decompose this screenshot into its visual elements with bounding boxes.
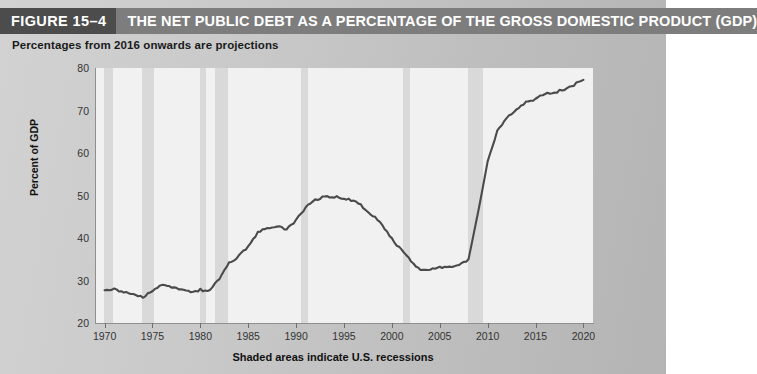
x-axis-tick-label: 2010 xyxy=(476,330,499,342)
x-axis-tick-mark xyxy=(248,323,249,328)
y-axis-tick-label: 20 xyxy=(67,317,89,329)
chart-region xyxy=(0,58,666,358)
x-axis-tick-label: 2020 xyxy=(572,330,595,342)
x-axis-tick-label: 2015 xyxy=(524,330,547,342)
x-axis-tick-label: 1995 xyxy=(332,330,355,342)
x-axis-tick-label: 2005 xyxy=(428,330,451,342)
x-axis-tick-label: 1985 xyxy=(237,330,260,342)
y-axis-tick-label: 80 xyxy=(67,62,89,74)
x-axis-tick-mark xyxy=(344,323,345,328)
y-axis-tick-label: 70 xyxy=(67,105,89,117)
y-axis-title: Percent of GDP xyxy=(28,119,40,196)
x-axis-tick-mark xyxy=(440,323,441,328)
x-axis-tick-mark xyxy=(105,323,106,328)
x-axis-tick-label: 1990 xyxy=(284,330,307,342)
chart-caption: Shaded areas indicate U.S. recessions xyxy=(0,351,666,363)
y-axis-tick-label: 60 xyxy=(67,147,89,159)
x-axis-tick-mark xyxy=(392,323,393,328)
x-axis-tick-mark xyxy=(583,323,584,328)
figure-header-bar: FIGURE 15–4 THE NET PUBLIC DEBT AS A PER… xyxy=(0,8,666,34)
x-axis-tick-label: 1975 xyxy=(141,330,164,342)
x-axis-tick-mark xyxy=(536,323,537,328)
x-axis-tick-label: 1970 xyxy=(93,330,116,342)
figure-subtitle: Percentages from 2016 onwards are projec… xyxy=(12,39,279,51)
x-axis-tick-mark xyxy=(200,323,201,328)
x-axis-tick-label: 1980 xyxy=(189,330,212,342)
plot-area xyxy=(95,68,593,323)
debt-line-series xyxy=(95,68,593,323)
x-axis-tick-mark xyxy=(296,323,297,328)
x-axis-tick-label: 2000 xyxy=(380,330,403,342)
y-axis-tick-label: 50 xyxy=(67,190,89,202)
figure-number-label: FIGURE 15–4 xyxy=(0,8,116,34)
y-axis-tick-label: 40 xyxy=(67,232,89,244)
x-axis-tick-mark xyxy=(152,323,153,328)
debt-line-path xyxy=(105,80,584,298)
y-axis-line xyxy=(95,68,96,323)
page-title: THE NET PUBLIC DEBT AS A PERCENTAGE OF T… xyxy=(116,8,757,34)
x-axis-tick-mark xyxy=(488,323,489,328)
y-axis-tick-label: 30 xyxy=(67,275,89,287)
